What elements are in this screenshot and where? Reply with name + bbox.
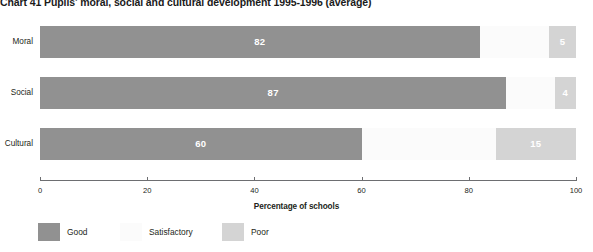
bar-value-label: 87 xyxy=(40,77,506,109)
category-label-moral: Moral xyxy=(0,26,33,58)
x-axis-tick xyxy=(576,177,577,181)
chart-legend: Good Satisfactory Poor xyxy=(0,221,593,247)
plot-area: Moral 82 5 Social 87 xyxy=(0,20,593,180)
legend-swatch-good xyxy=(38,223,60,241)
bar-value-label: 82 xyxy=(40,26,480,58)
bar-row: Moral 82 5 xyxy=(0,26,593,58)
bar-segments-moral: 82 5 xyxy=(40,26,576,58)
bar-segment-good[interactable]: 87 xyxy=(40,77,506,109)
bar-segments-cultural: 60 15 xyxy=(40,128,576,160)
x-axis: 020406080100 Percentage of schools xyxy=(0,180,593,210)
x-axis-tick-label: 20 xyxy=(127,186,167,195)
chart-container: Chart 41 Pupils' moral, social and cultu… xyxy=(0,0,593,252)
bar-segment-poor[interactable]: 4 xyxy=(555,77,576,109)
legend-swatch-poor xyxy=(222,223,244,241)
x-axis-tick xyxy=(254,177,255,181)
bar-segment-satisfactory[interactable] xyxy=(506,77,554,109)
legend-label-good: Good xyxy=(67,221,88,243)
bar-segments-social: 87 4 xyxy=(40,77,576,109)
x-axis-tick-label: 60 xyxy=(342,186,382,195)
bar-value-label: 60 xyxy=(40,128,362,160)
bar-value-label: 4 xyxy=(555,77,576,109)
legend-swatch-satisfactory xyxy=(120,223,142,241)
bar-segment-satisfactory[interactable] xyxy=(480,26,550,58)
bar-segment-poor[interactable]: 15 xyxy=(496,128,576,160)
x-axis-title: Percentage of schools xyxy=(0,202,593,211)
bar-segment-good[interactable]: 82 xyxy=(40,26,480,58)
x-axis-tick-label: 0 xyxy=(20,186,60,195)
x-axis-line xyxy=(40,180,576,181)
category-label-cultural: Cultural xyxy=(0,128,33,160)
x-axis-tick xyxy=(147,177,148,181)
x-axis-tick-label: 40 xyxy=(234,186,274,195)
bar-row: Cultural 60 15 xyxy=(0,128,593,160)
legend-label-poor: Poor xyxy=(251,221,269,243)
x-axis-tick xyxy=(362,177,363,181)
bar-segment-satisfactory[interactable] xyxy=(362,128,496,160)
bar-value-label: 15 xyxy=(496,128,576,160)
category-label-social: Social xyxy=(0,77,33,109)
bar-segment-poor[interactable]: 5 xyxy=(549,26,576,58)
bar-value-label: 5 xyxy=(549,26,576,58)
legend-label-satisfactory: Satisfactory xyxy=(149,221,193,243)
bar-row: Social 87 4 xyxy=(0,77,593,109)
bar-segment-good[interactable]: 60 xyxy=(40,128,362,160)
x-axis-tick xyxy=(40,177,41,181)
x-axis-tick xyxy=(469,177,470,181)
chart-title: Chart 41 Pupils' moral, social and cultu… xyxy=(0,0,593,10)
x-axis-tick-label: 80 xyxy=(449,186,489,195)
x-axis-tick-label: 100 xyxy=(556,186,593,195)
